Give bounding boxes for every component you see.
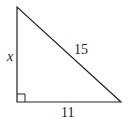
vertical-leg-label: x xyxy=(6,49,14,64)
horizontal-leg-label: 11 xyxy=(61,105,74,119)
hypotenuse-label: 15 xyxy=(74,42,88,57)
right-angle-marker xyxy=(17,94,25,102)
triangle-diagram: x 15 11 xyxy=(0,0,128,119)
right-triangle xyxy=(17,7,121,102)
